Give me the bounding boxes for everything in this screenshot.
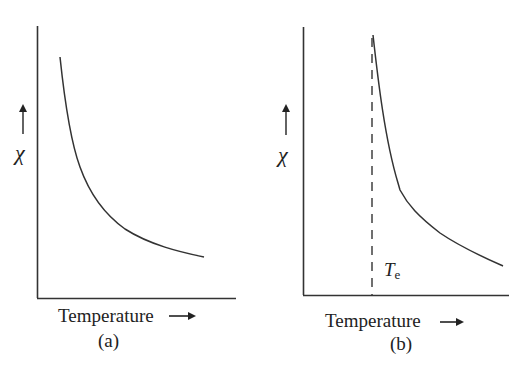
x-axis-label-b: Temperature xyxy=(325,310,421,331)
figure: χ Temperature (a) χ Te Temperature (b) xyxy=(0,0,529,379)
y-axis-label-b: χ xyxy=(276,142,289,167)
te-subscript: e xyxy=(395,267,401,282)
curve-a xyxy=(60,57,204,257)
curve-b xyxy=(373,35,503,266)
panel-tag-b: (b) xyxy=(390,333,412,355)
transition-temp-label: Te xyxy=(384,259,401,282)
panel-tag-a: (a) xyxy=(98,330,119,352)
panel-b: χ Te Temperature (b) xyxy=(276,27,509,355)
x-axis-label-a: Temperature xyxy=(58,305,154,326)
y-axis-label-a: χ xyxy=(13,140,26,165)
panel-a: χ Temperature (a) xyxy=(13,26,236,352)
